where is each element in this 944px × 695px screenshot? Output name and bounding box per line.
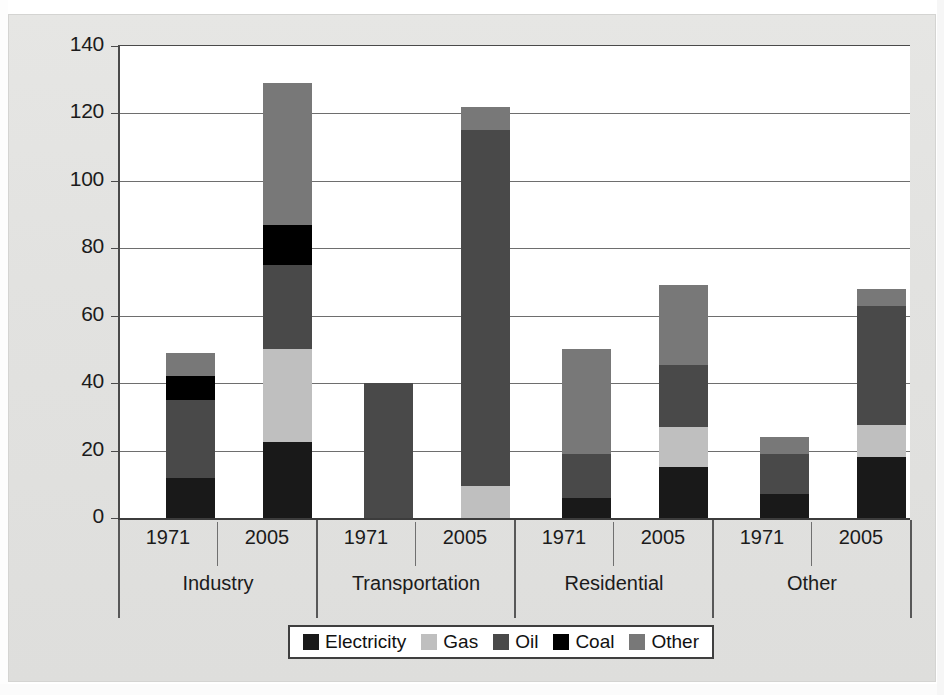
legend-item-coal[interactable]: Coal: [553, 631, 614, 653]
bar-segment-coal: [263, 225, 312, 265]
legend-label: Gas: [443, 631, 478, 653]
legend-label: Electricity: [325, 631, 406, 653]
x-axis-year-label: 2005: [417, 526, 513, 549]
bar-transportation-2005[interactable]: [461, 107, 510, 518]
x-axis-group-label: Residential: [514, 572, 714, 595]
bar-segment-oil: [562, 454, 611, 498]
x-axis-year-label: 1971: [714, 526, 810, 549]
bar-segment-electricity: [562, 498, 611, 518]
year-divider: [217, 522, 218, 566]
legend-swatch-icon: [493, 634, 509, 650]
legend-item-gas[interactable]: Gas: [421, 631, 478, 653]
y-axis-tick: [111, 316, 118, 317]
bar-segment-other: [166, 353, 215, 377]
page-edge-top: [0, 0, 944, 14]
page-edge-right: [937, 0, 944, 695]
bar-other-2005[interactable]: [857, 289, 906, 518]
y-axis-tick: [111, 518, 118, 519]
year-divider: [613, 522, 614, 566]
x-axis-year-label: 2005: [219, 526, 315, 549]
gridline: [120, 181, 910, 182]
gridline: [120, 316, 910, 317]
legend-label: Coal: [575, 631, 614, 653]
page-edge-left: [0, 0, 8, 695]
bar-segment-gas: [461, 486, 510, 518]
y-axis-tick: [111, 451, 118, 452]
bar-industry-2005[interactable]: [263, 83, 312, 518]
gridline: [120, 248, 910, 249]
group-divider: [910, 520, 912, 618]
bar-segment-electricity: [263, 442, 312, 518]
year-divider: [415, 522, 416, 566]
y-axis-tick: [111, 181, 118, 182]
x-axis-year-label: 1971: [318, 526, 414, 549]
legend-label: Oil: [515, 631, 538, 653]
y-axis-tick-label: 40: [28, 369, 104, 393]
bar-segment-oil: [263, 265, 312, 349]
bar-segment-other: [263, 83, 312, 225]
bar-segment-electricity: [659, 467, 708, 518]
legend-swatch-icon: [553, 634, 569, 650]
bar-residential-1971[interactable]: [562, 349, 611, 518]
x-axis-group-label: Other: [712, 572, 912, 595]
y-axis-tick: [111, 113, 118, 114]
x-axis-year-label: 1971: [516, 526, 612, 549]
bar-segment-oil: [166, 400, 215, 478]
bar-segment-gas: [857, 425, 906, 457]
bar-segment-other: [659, 285, 708, 364]
gridline: [120, 113, 910, 114]
y-axis-tick-label: 20: [28, 437, 104, 461]
bar-segment-other: [760, 437, 809, 454]
y-axis-tick-label: 0: [28, 504, 104, 528]
x-axis-year-label: 2005: [615, 526, 711, 549]
gridline: [120, 383, 910, 384]
bar-segment-gas: [263, 349, 312, 442]
bar-segment-electricity: [857, 457, 906, 518]
y-axis-tick-label: 140: [28, 32, 104, 56]
legend-swatch-icon: [629, 634, 645, 650]
y-axis-tick: [111, 46, 118, 47]
chart-page: 020406080100120140 19712005Industry19712…: [0, 0, 944, 695]
bar-segment-oil: [760, 454, 809, 494]
page-edge-bottom: [0, 684, 944, 695]
y-axis-tick: [111, 248, 118, 249]
bar-industry-1971[interactable]: [166, 353, 215, 518]
legend-label: Other: [651, 631, 699, 653]
bar-segment-other: [562, 349, 611, 454]
x-axis-year-label: 1971: [120, 526, 216, 549]
bar-segment-electricity: [166, 478, 215, 518]
y-axis-tick: [111, 383, 118, 384]
y-axis-tick-label: 80: [28, 234, 104, 258]
bar-segment-oil: [659, 365, 708, 427]
y-axis-tick-label: 60: [28, 302, 104, 326]
legend-item-oil[interactable]: Oil: [493, 631, 538, 653]
y-axis-tick-label: 120: [28, 99, 104, 123]
bar-segment-coal: [166, 376, 215, 400]
bar-segment-other: [857, 289, 906, 306]
x-axis-group-label: Industry: [118, 572, 318, 595]
chart-legend: ElectricityGasOilCoalOther: [288, 625, 714, 659]
bar-segment-electricity: [760, 494, 809, 518]
y-axis-tick-label: 100: [28, 167, 104, 191]
category-axis: 19712005Industry19712005Transportation19…: [118, 520, 910, 618]
bar-residential-2005[interactable]: [659, 285, 708, 518]
bar-segment-oil: [857, 306, 906, 426]
year-divider: [811, 522, 812, 566]
bar-segment-oil: [364, 383, 413, 518]
legend-item-electricity[interactable]: Electricity: [303, 631, 406, 653]
legend-item-other[interactable]: Other: [629, 631, 699, 653]
bar-transportation-1971[interactable]: [364, 383, 413, 518]
x-axis-year-label: 2005: [813, 526, 909, 549]
bar-other-1971[interactable]: [760, 437, 809, 518]
bar-segment-oil: [461, 130, 510, 486]
legend-swatch-icon: [303, 634, 319, 650]
x-axis-group-label: Transportation: [316, 572, 516, 595]
bar-segment-gas: [659, 427, 708, 467]
legend-swatch-icon: [421, 634, 437, 650]
bar-segment-other: [461, 107, 510, 131]
plot-area: [118, 46, 910, 518]
